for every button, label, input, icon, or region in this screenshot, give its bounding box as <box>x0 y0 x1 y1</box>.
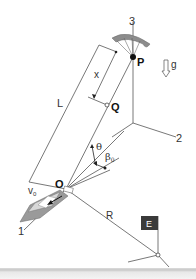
flag-E-label: E <box>146 219 152 229</box>
g-label: g <box>171 59 177 70</box>
axis-2-line <box>133 123 176 137</box>
axis-origin-diag <box>112 123 133 137</box>
E-base-line-b <box>158 255 169 267</box>
parasail-canopy <box>112 34 150 57</box>
axis-1-label: 1 <box>18 225 24 237</box>
point-Q <box>105 103 109 107</box>
L-dimension-line <box>29 45 99 182</box>
bottom-border <box>0 268 196 279</box>
point-P-label: P <box>137 56 144 68</box>
point-P <box>130 54 136 60</box>
theta-label: θ <box>96 141 102 152</box>
gravity-arrow-icon <box>162 60 170 77</box>
beta0-label: β0 <box>105 151 115 163</box>
point-Q-label: Q <box>111 101 120 113</box>
L-tick-top <box>99 45 117 52</box>
axis-2-label: 2 <box>176 132 182 144</box>
E-base-line-a <box>128 255 158 262</box>
point-E-base <box>156 253 160 257</box>
R-label: R <box>106 210 113 221</box>
point-O-label: O <box>55 178 64 190</box>
x-tick-bottom <box>88 97 107 105</box>
v0-label: v0 <box>28 185 37 197</box>
theta-arc-arrow <box>92 146 95 162</box>
x-label: x <box>94 69 99 80</box>
L-label: L <box>57 97 63 109</box>
theta-arrowhead <box>90 144 94 148</box>
parasail-diagram: 3 2 1 P Q O L x R θ β0 v0 g E <box>0 0 196 279</box>
axis-3-label: 3 <box>129 15 135 27</box>
beta-dot <box>104 167 107 170</box>
x-top-dot <box>115 51 118 54</box>
ray-horizontal <box>66 170 110 189</box>
